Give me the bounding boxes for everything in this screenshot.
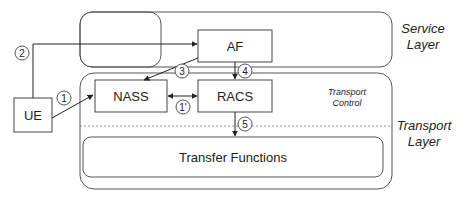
svg-text:2: 2: [19, 48, 25, 59]
step-2-badge: 2: [15, 46, 29, 60]
step-5-badge: 5: [238, 117, 252, 131]
service-layer-label-1: Service: [401, 21, 444, 36]
arrow-af-to-nass: [144, 58, 198, 80]
svg-text:3: 3: [179, 66, 185, 77]
svg-text:1: 1: [61, 93, 67, 104]
af-label: AF: [227, 39, 244, 54]
step-1prime-badge: 1': [176, 100, 190, 114]
transport-control-label-1: Transport: [328, 87, 366, 97]
step-4-badge: 4: [238, 64, 252, 78]
transport-layer-label-2: Layer: [408, 134, 441, 149]
step-1-badge: 1: [57, 91, 71, 105]
service-layer-container: [80, 12, 161, 67]
transport-control-label-2: Control: [332, 98, 362, 108]
service-layer-outline: [80, 12, 150, 67]
svg-text:4: 4: [242, 66, 248, 77]
svg-text:1': 1': [179, 102, 187, 113]
svg-text:5: 5: [242, 119, 248, 130]
step-3-badge: 3: [175, 64, 189, 78]
racs-label: RACS: [217, 89, 253, 104]
transport-layer-label-1: Transport: [397, 118, 453, 133]
service-layer-label-2: Layer: [407, 37, 440, 52]
nass-label: NASS: [113, 89, 149, 104]
architecture-diagram: Transfer Functions AF NASS RACS UE 2 1 3…: [0, 0, 458, 199]
ue-label: UE: [24, 108, 42, 123]
transfer-functions-label: Transfer Functions: [179, 150, 287, 165]
